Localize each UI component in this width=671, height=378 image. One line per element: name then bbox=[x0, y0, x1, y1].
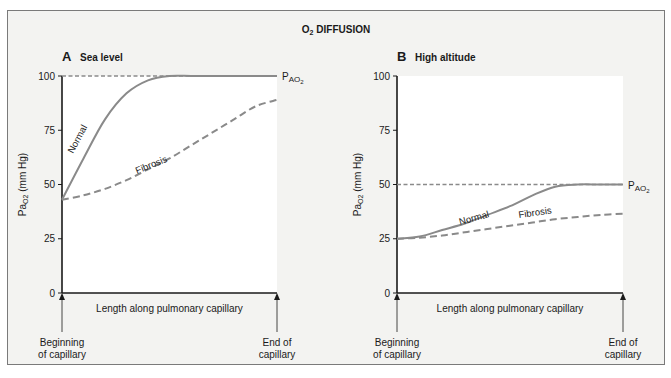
y-tick-label: 25 bbox=[44, 233, 56, 244]
y-tick-label: 100 bbox=[38, 71, 55, 82]
start-label-line1: Beginning bbox=[40, 337, 84, 348]
y-tick-label: 100 bbox=[373, 71, 390, 82]
panel-title: High altitude bbox=[415, 52, 476, 63]
y-axis-label: PaO2 (mm Hg) bbox=[17, 153, 29, 216]
y-tick-label: 75 bbox=[44, 125, 56, 136]
y-tick-label: 25 bbox=[379, 233, 391, 244]
end-label-line1: End of bbox=[263, 337, 292, 348]
panel-letter: B bbox=[397, 49, 406, 64]
arrow-up-icon-start bbox=[59, 293, 65, 300]
panel-a-sea-level: ASea level0255075100PaO2 (mm Hg)PAO2Norm… bbox=[17, 49, 304, 360]
start-label-line2: of capillary bbox=[38, 349, 86, 360]
arrow-up-icon-end bbox=[274, 293, 280, 300]
panel-b-high-altitude: BHigh altitude0255075100PaO2 (mm Hg)PAO2… bbox=[352, 49, 650, 360]
panel-title: Sea level bbox=[80, 52, 123, 63]
end-label-line2: capillary bbox=[605, 349, 642, 360]
start-label-line2: of capillary bbox=[373, 349, 421, 360]
reference-label: PAO2 bbox=[628, 180, 650, 194]
y-tick-label: 50 bbox=[379, 179, 391, 190]
end-label-line1: End of bbox=[609, 337, 638, 348]
y-tick-label: 0 bbox=[384, 288, 390, 299]
y-axis-label: PaO2 (mm Hg) bbox=[352, 153, 364, 216]
x-axis-label: Length along pulmonary capillary bbox=[96, 303, 243, 314]
reference-label: PAO2 bbox=[282, 71, 304, 85]
arrow-up-icon-start bbox=[394, 293, 400, 300]
x-axis-label: Length along pulmonary capillary bbox=[437, 303, 584, 314]
y-tick-label: 50 bbox=[44, 179, 56, 190]
end-label-line2: capillary bbox=[259, 349, 296, 360]
arrow-up-icon-end bbox=[620, 293, 626, 300]
figure-title: O2 DIFFUSION bbox=[302, 24, 370, 36]
plot-area bbox=[62, 76, 277, 293]
panel-letter: A bbox=[62, 49, 72, 64]
start-label-line1: Beginning bbox=[375, 337, 419, 348]
o2-diffusion-figure: O2 DIFFUSION ASea level0255075100PaO2 (m… bbox=[0, 0, 671, 378]
y-tick-label: 75 bbox=[379, 125, 391, 136]
y-tick-label: 0 bbox=[49, 288, 55, 299]
